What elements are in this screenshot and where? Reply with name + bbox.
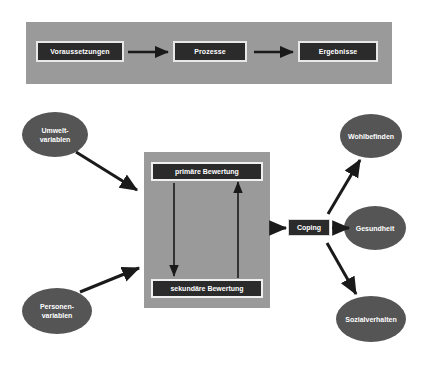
coping-box: Coping [288, 219, 330, 236]
ellipse-sozialverhalten: Sozialverhalten [336, 296, 406, 342]
arrow-personen-to-panel [80, 268, 139, 292]
ellipse-gesundheit: Gesundheit [344, 206, 406, 250]
band-box-label: Voraussetzungen [50, 48, 109, 55]
diagram-canvas: Voraussetzungen Prozesse Ergebnisse prim… [0, 0, 433, 368]
ellipse-label-line1: Gesundheit [356, 224, 395, 233]
ellipse-label-line1: Sozialverhalten [345, 315, 396, 324]
ellipse-label-line1: Umwelt- [41, 126, 68, 135]
band-box-voraussetzungen: Voraussetzungen [36, 41, 124, 62]
ellipse-umweltvariablen: Umwelt- variablen [22, 112, 88, 157]
panel-box-sekundaere-bewertung: sekundäre Bewertung [151, 279, 263, 298]
top-band: Voraussetzungen Prozesse Ergebnisse [26, 22, 392, 84]
ellipse-label-line1: Personen- [40, 302, 74, 311]
arrow-coping-to-wohlbefinden [328, 160, 360, 214]
coping-label: Coping [297, 224, 321, 231]
ellipse-label-line1: Wohlbefinden [348, 132, 394, 141]
ellipse-label-line2: variablen [42, 311, 73, 320]
panel-box-label: primäre Bewertung [175, 168, 239, 175]
panel-box-label: sekundäre Bewertung [170, 285, 243, 292]
ellipse-wohlbefinden: Wohlbefinden [340, 114, 402, 158]
ellipse-personenvariablen: Personen- variablen [22, 288, 92, 334]
panel-box-primaere-bewertung: primäre Bewertung [151, 162, 263, 181]
band-box-label: Prozesse [194, 48, 226, 55]
bewertung-panel: primäre Bewertung sekundäre Bewertung [144, 152, 270, 308]
arrow-umwelt-to-panel [76, 152, 137, 190]
arrow-coping-to-sozialverhalten [327, 243, 356, 294]
ellipse-label-line2: variablen [40, 135, 71, 144]
band-box-prozesse: Prozesse [173, 41, 247, 62]
band-box-label: Ergebnisse [319, 48, 358, 55]
band-box-ergebnisse: Ergebnisse [298, 41, 378, 62]
